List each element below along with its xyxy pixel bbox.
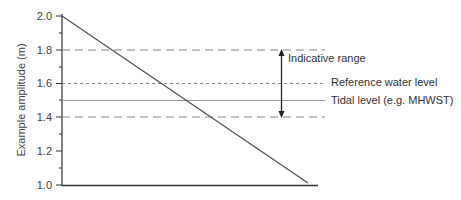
diagram-canvas: Example amplitude (m) 2.0 1.8 1.6 1.4 1.… [0, 0, 461, 200]
tick-label-1-6: 1.6 [37, 77, 52, 89]
y-axis-label: Example amplitude (m) [15, 43, 27, 156]
tick-label-2-0: 2.0 [37, 10, 52, 22]
tidal-level-label: Tidal level (e.g. MHWST) [331, 94, 453, 106]
y-axis-ticks [56, 16, 62, 185]
reference-water-level-label: Reference water level [331, 76, 437, 88]
indicative-range-label: Indicative range [288, 52, 366, 64]
tick-label-1-2: 1.2 [37, 145, 52, 157]
tick-label-1-8: 1.8 [37, 44, 52, 56]
tick-label-1-4: 1.4 [37, 111, 52, 123]
tick-label-1-0: 1.0 [37, 179, 52, 191]
amplitude-decline-line [62, 16, 308, 183]
